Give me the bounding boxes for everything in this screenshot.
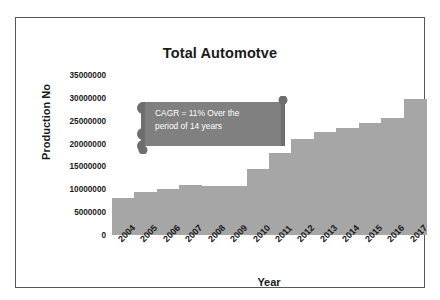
x-axis-tick-labels: 2004200520062007200820092010201120122013… (112, 237, 426, 277)
callout-left-edge (141, 102, 145, 146)
bar-2013 (314, 132, 337, 235)
callout-right-edge (281, 102, 285, 146)
bar-2012 (291, 139, 314, 235)
y-axis-tick-labels: 3500000030000000250000002000000015000000… (48, 75, 106, 235)
x-axis-title: Year (112, 276, 426, 288)
y-tick-5000000: 5000000 (48, 208, 106, 217)
chart-screenshot: Total Automotve Production No 3500000030… (0, 0, 440, 300)
y-tick-25000000: 25000000 (48, 116, 106, 125)
cagr-callout-text: CAGR = 11% Over the period of 14 years (155, 107, 277, 132)
bar-2011 (269, 153, 292, 235)
y-tick-35000000: 35000000 (48, 71, 106, 80)
chart-title: Total Automotve (16, 45, 424, 61)
cagr-callout: CAGR = 11% Over the period of 14 years (137, 96, 289, 154)
y-tick-20000000: 20000000 (48, 139, 106, 148)
bar-2015 (359, 123, 382, 235)
figure-frame: Total Automotve Production No 3500000030… (15, 17, 425, 288)
y-tick-15000000: 15000000 (48, 162, 106, 171)
bar-2017 (404, 99, 427, 235)
bar-2014 (336, 128, 359, 235)
y-tick-30000000: 30000000 (48, 93, 106, 102)
cagr-line-1: CAGR = 11% Over the (155, 108, 239, 118)
y-tick-10000000: 10000000 (48, 185, 106, 194)
cagr-line-2: period of 14 years (155, 121, 222, 131)
y-tick-0: 0 (48, 231, 106, 240)
bar-2016 (381, 118, 404, 235)
